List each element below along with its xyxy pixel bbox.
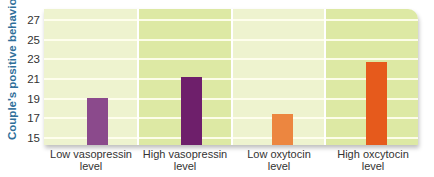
panel-divider <box>231 9 233 145</box>
bar-high-oxytocin <box>366 62 387 145</box>
y-tick-19: 19 <box>22 93 40 105</box>
bar-low-vasopressin <box>87 98 108 145</box>
y-tick-15: 15 <box>22 132 40 144</box>
x-label-line1: High oxcytocin <box>323 148 423 160</box>
x-label-high-vasopressin: High vasopressin level <box>135 148 235 172</box>
y-tick-21: 21 <box>22 73 40 85</box>
y-axis-label: Couple's positive behavior <box>6 10 20 140</box>
y-tick-17: 17 <box>22 112 40 124</box>
x-label-line2: level <box>323 160 423 172</box>
x-label-line1: Low vasopressin <box>41 148 141 160</box>
y-tick-23: 23 <box>22 53 40 65</box>
x-label-high-oxytocin: High oxcytocin level <box>323 148 423 172</box>
x-label-line2: level <box>229 160 329 172</box>
x-label-low-oxytocin: Low oxytocin level <box>229 148 329 172</box>
x-label-line2: level <box>135 160 235 172</box>
x-label-line2: level <box>41 160 141 172</box>
bar-high-vasopressin <box>181 77 202 145</box>
x-label-low-vasopressin: Low vasopressin level <box>41 148 141 172</box>
panel-divider <box>137 9 139 145</box>
bar-low-oxytocin <box>272 114 293 145</box>
y-tick-25: 25 <box>22 34 40 46</box>
panel-divider <box>324 9 326 145</box>
plot-area <box>44 9 418 145</box>
x-label-line1: High vasopressin <box>135 148 235 160</box>
y-tick-27: 27 <box>22 14 40 26</box>
x-label-line1: Low oxytocin <box>229 148 329 160</box>
